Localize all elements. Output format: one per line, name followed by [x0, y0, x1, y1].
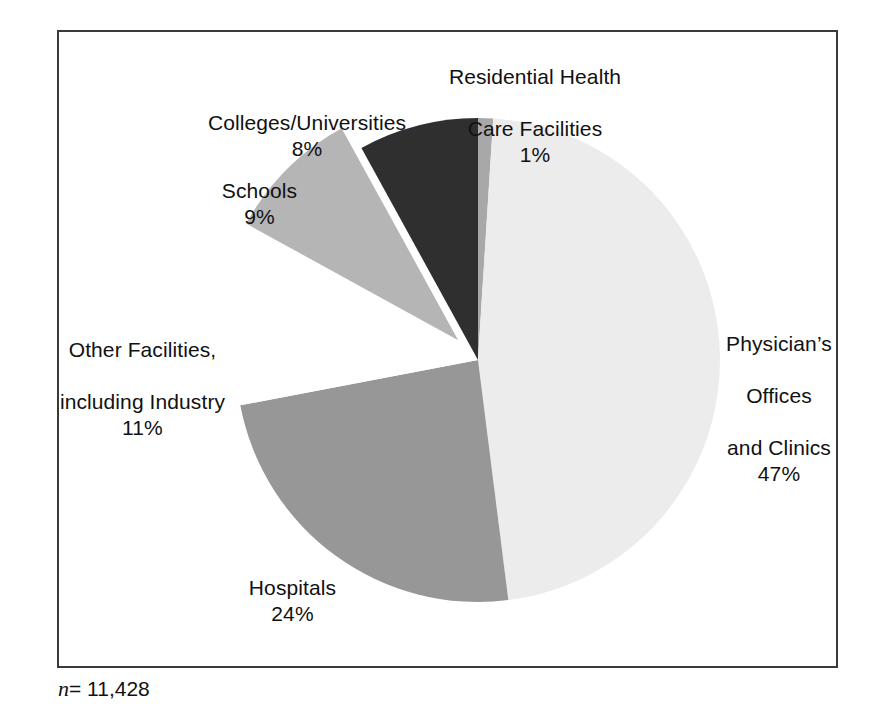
- pie-label-percent: 11%: [20, 415, 265, 441]
- pie-label-line1: Colleges/Universities: [208, 111, 406, 134]
- sample-size-symbol: n: [58, 676, 69, 701]
- pie-label-line1: Physician’s: [726, 332, 832, 355]
- pie-chart-figure: Residential Health Care Facilities 1% Co…: [0, 0, 880, 714]
- pie-label-line1: Residential Health: [449, 65, 621, 88]
- pie-label-percent: 24%: [205, 601, 380, 627]
- pie-label-residential-health-care-facilities: Residential Health Care Facilities 1%: [425, 38, 645, 194]
- pie-label-percent: 9%: [182, 204, 337, 230]
- sample-size-value: = 11,428: [69, 677, 150, 700]
- pie-label-schools: Schools 9%: [182, 152, 337, 256]
- pie-label-line2: Offices: [746, 384, 812, 407]
- pie-label-physicians-offices-and-clinics: Physician’s Offices and Clinics 47%: [690, 305, 868, 513]
- pie-label-other-facilities-including-industry: Other Facilities, including Industry 11%: [20, 311, 265, 467]
- pie-label-percent: 1%: [425, 142, 645, 168]
- pie-label-line1: Hospitals: [249, 576, 336, 599]
- sample-size-footnote: n= 11,428: [58, 676, 150, 702]
- pie-label-line2: including Industry: [60, 390, 225, 413]
- pie-label-line1: Schools: [222, 179, 297, 202]
- pie-label-line3: and Clinics: [727, 436, 831, 459]
- pie-label-line1: Other Facilities,: [69, 338, 217, 361]
- pie-label-percent: 47%: [690, 461, 868, 487]
- pie-label-hospitals: Hospitals 24%: [205, 549, 380, 653]
- pie-label-line2: Care Facilities: [468, 117, 603, 140]
